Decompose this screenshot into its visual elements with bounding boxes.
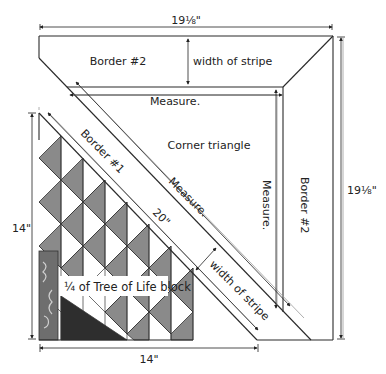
measure-top-label: Measure.	[150, 95, 200, 108]
border2-top-label: Border #2	[90, 55, 147, 68]
top-dimension-label: 19⅛"	[171, 14, 201, 27]
left-dimension-label: 14"	[12, 222, 31, 235]
right-dimension-label: 19⅛"	[347, 184, 377, 197]
width-of-stripe-diagonal-label: width of stripe	[207, 258, 272, 323]
corner-triangle-label: Corner triangle	[168, 139, 251, 152]
width-of-stripe-top-label: width of stripe	[193, 55, 273, 68]
diagonal-dimension-label: 20"	[150, 206, 173, 229]
measure-right-label: Measure.	[260, 180, 273, 230]
quilt-border-diagram: ¼ of Tree of Life block	[0, 0, 386, 374]
block-label: ¼ of Tree of Life block	[64, 280, 191, 294]
border2-right-label: Border #2	[298, 177, 311, 234]
bottom-dimension-label: 14"	[139, 353, 158, 366]
